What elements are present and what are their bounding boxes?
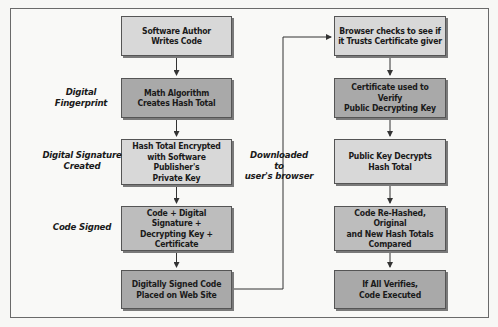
step-browser-checks-trust: Browser checks to see if it Trusts Certi… (334, 16, 446, 56)
label-digital-signature-created: Digital Signature Created (42, 150, 122, 171)
step-math-algorithm-hash: Math Algorithm Creates Hash Total (121, 78, 232, 118)
step-certificate-verifies-key: Certificate used to Verify Public Decryp… (334, 78, 446, 118)
label-downloaded-to-browser: Downloaded to user's browser (244, 150, 314, 182)
step-code-executed: If All Verifies, Code Executed (334, 270, 446, 309)
step-placed-on-web-site: Digitally Signed Code Placed on Web Site (121, 270, 232, 309)
label-digital-fingerprint: Digital Fingerprint (46, 87, 116, 108)
label-code-signed: Code Signed (52, 222, 112, 233)
step-hash-encrypted: Hash Total Encrypted with Software Publi… (121, 139, 232, 185)
step-software-author-writes-code: Software Author Writes Code (121, 16, 232, 56)
step-code-rehashed-compared: Code Re-Hashed, Original and New Hash To… (334, 206, 446, 251)
step-code-signature-bundle: Code + Digital Signature + Decrypting Ke… (121, 206, 232, 251)
step-public-key-decrypts: Public Key Decrypts Hash Total (334, 139, 446, 184)
